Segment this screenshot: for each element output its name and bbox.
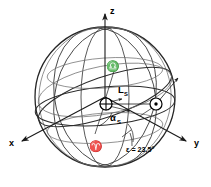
ecliptic-longitude-subscript: S	[124, 91, 128, 97]
celestial-sphere-diagram: x y z	[0, 0, 211, 187]
libra-point-ray	[105, 68, 115, 100]
sun-symbol	[150, 98, 162, 110]
x-axis-line	[22, 97, 105, 141]
celestial-sphere-svg: x y z	[0, 0, 211, 187]
y-axis-label: y	[194, 138, 199, 148]
right-ascension-label: α S	[110, 112, 121, 125]
right-ascension-base: α	[110, 112, 116, 123]
obliquity-leader-line	[122, 130, 131, 137]
libra-autumnal-equinox-symbol: ♎	[106, 60, 120, 73]
obliquity-angle-group	[122, 124, 133, 146]
earth-symbol	[100, 98, 113, 111]
aries-glyph: ♈	[89, 140, 103, 153]
right-ascension-subscript: S	[117, 119, 121, 125]
aries-vernal-equinox-symbol: ♈	[89, 140, 103, 153]
libra-glyph: ♎	[106, 60, 120, 73]
axes-group	[22, 14, 186, 141]
x-axis-label: x	[9, 138, 14, 148]
obliquity-label: ε = 23,5°	[126, 145, 155, 154]
z-axis-label: z	[110, 6, 115, 16]
